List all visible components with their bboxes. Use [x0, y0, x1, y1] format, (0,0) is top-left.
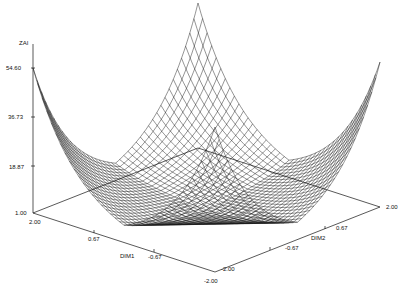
- mesh-line-dim2: [182, 58, 364, 173]
- z-axis-title: ZAI: [19, 40, 29, 46]
- mesh-line-dim1: [33, 3, 198, 163]
- mesh-line-dim1: [47, 46, 212, 173]
- dim1-tick-label: -2.00: [204, 278, 218, 284]
- mesh-line-dim2: [194, 19, 376, 164]
- mesh-line-dim1: [110, 149, 275, 217]
- mesh-line-dim1: [51, 58, 216, 176]
- z-tick-label: 36.73: [8, 114, 24, 120]
- dim2-axis-title: DIM2: [311, 235, 326, 241]
- mesh-line-dim1: [56, 69, 221, 180]
- mesh-line-dim1: [197, 105, 362, 223]
- mesh-line-dim1: [215, 62, 380, 222]
- dim2-tick-label: 0.67: [336, 225, 348, 231]
- back-edge-left: [33, 148, 198, 213]
- mesh-line-dim2: [198, 3, 380, 160]
- dim2-tick-label: -0.67: [285, 245, 299, 251]
- dim2-tick-label: 2.00: [386, 204, 398, 210]
- surface-plot: ZAI 54.60 36.73 18.87 1.00 2.00 0.67 DIM…: [0, 0, 414, 291]
- mesh-line-dim2: [177, 69, 359, 176]
- z-tick-label: 1.00: [15, 210, 27, 216]
- dim1-tick-label: -0.67: [148, 254, 162, 260]
- mesh-line-dim2: [103, 161, 285, 223]
- mesh-line-dim1: [60, 79, 225, 183]
- z-tick-label: 54.60: [6, 65, 22, 71]
- dim1-tick-label: 2.00: [29, 219, 41, 225]
- z-tick-label: 18.87: [9, 164, 25, 170]
- mesh-line-dim1: [88, 124, 253, 201]
- dim1-axis-title: DIM1: [120, 253, 135, 259]
- mesh-line-dim2: [33, 68, 215, 225]
- dim2-tick-label: -2.00: [221, 266, 235, 272]
- dim1-tick-label: 0.67: [88, 236, 100, 242]
